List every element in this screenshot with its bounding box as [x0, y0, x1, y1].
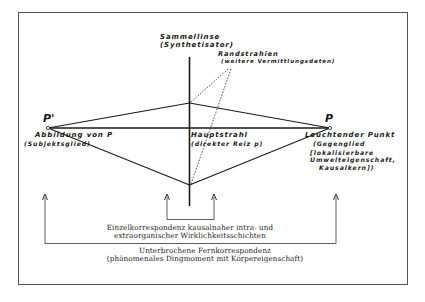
object-point-marker [328, 126, 331, 129]
image-point-symbol: P' [43, 113, 54, 125]
edge-rays-label: Randstrahien (weitere Vermittlungsdaten) [216, 51, 335, 65]
image-point-label: Abbildung von P (Subjektsglied) [33, 132, 113, 148]
object-point-title: Leuchtender Punkt [305, 132, 396, 139]
edge-rays-subtitle: (weitere Vermittlungsdaten) [216, 59, 335, 65]
lens-title: Sammellinse [160, 34, 220, 41]
edge-rays-title: Randstrahien [216, 51, 335, 58]
upper-ray-left [48, 103, 190, 128]
inner-correspondence-caption: Einzelkorrespondenz kausalnaher intra- u… [90, 224, 290, 239]
lens-label: Sammellinse (Synthetisator) [160, 34, 220, 50]
image-point-title: Abbildung von P [33, 132, 113, 139]
main-ray-label: Hauptstrahl (direkter Reiz p) [191, 132, 263, 148]
object-point-line5: Kausalkern]) [305, 165, 396, 172]
image-point-marker [46, 126, 49, 129]
object-point-line4: Umwelteigenschaft, [305, 157, 396, 164]
object-point-symbol: P [325, 113, 333, 125]
outer-correspondence-line2: (phänomenales Dingmoment mit Körpereigen… [95, 255, 315, 263]
upper-ray-right [190, 103, 331, 128]
inner-correspondence-bracket [167, 197, 214, 220]
object-point-label: Leuchtender Punkt (Gegenglied [lokalisie… [305, 132, 396, 171]
image-point-subtitle: (Subjektsglied) [24, 141, 113, 148]
main-ray-title: Hauptstrahl [191, 132, 263, 139]
edge-ray-leader-lower [191, 69, 231, 184]
object-point-line2: (Gegenglied [305, 141, 396, 148]
outer-correspondence-caption: Unterbrochene Fernkorrespondenz (phänome… [95, 247, 315, 262]
lens-subtitle: (Synthetisator) [160, 42, 220, 49]
inner-correspondence-line2: extraorganischer Wirklichkeitsschichten [90, 232, 290, 240]
edge-ray-leader-upper [190, 69, 228, 103]
main-ray-subtitle: (direkter Reiz p) [191, 141, 263, 148]
